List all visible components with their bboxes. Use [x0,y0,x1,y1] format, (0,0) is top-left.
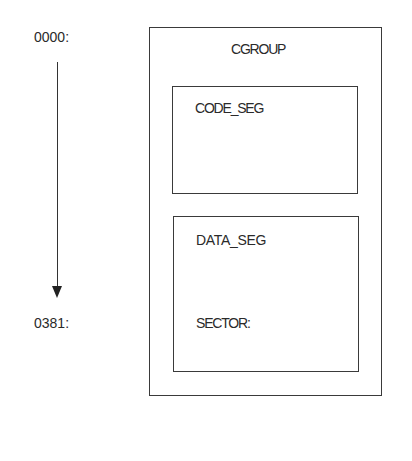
data-segment-box: DATA_SEG SECTOR: [173,216,359,372]
end-address-label: 0381: [34,315,69,331]
start-address-label: 0000: [34,29,69,45]
address-arrow-line [57,62,58,288]
code-segment-box: CODE_SEG [172,86,358,194]
code-segment-title: CODE_SEG [195,100,263,116]
data-segment-title: DATA_SEG [196,232,266,248]
arrow-down-icon [52,286,62,298]
group-title: CGROUP [231,41,285,57]
sector-label: SECTOR: [196,315,250,331]
